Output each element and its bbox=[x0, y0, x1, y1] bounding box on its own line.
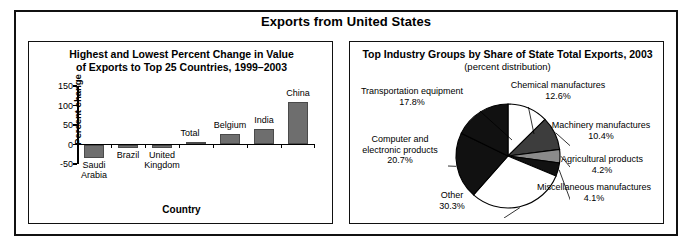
pie-chart-panel: Top Industry Groups by Share of State To… bbox=[349, 41, 664, 224]
pie-callout-percent: 10.4% bbox=[540, 131, 662, 142]
pie-callout-label: Miscellaneous manufactures bbox=[537, 182, 651, 192]
page-title: Exports from United States bbox=[14, 14, 678, 29]
bar-chart-x-tick bbox=[247, 144, 248, 148]
figure-root: Exports from United States Highest and L… bbox=[0, 0, 694, 249]
bar-chart-bar[interactable] bbox=[220, 134, 240, 145]
bar-chart-bar[interactable] bbox=[288, 102, 308, 145]
pie-chart-title: Top Industry Groups by Share of State To… bbox=[350, 42, 665, 61]
bar-chart-x-tick bbox=[213, 144, 214, 148]
bar-chart-x-tick bbox=[314, 144, 315, 148]
pie-callout-percent: 4.1% bbox=[526, 193, 662, 204]
bar-chart-category-label: India bbox=[237, 116, 291, 126]
pie-callout-percent: 20.7% bbox=[352, 155, 448, 166]
pie-chart-subtitle: (percent distribution) bbox=[350, 61, 665, 72]
bar-chart-y-tick bbox=[73, 85, 77, 86]
bar-chart-y-tick-label: 0 bbox=[68, 140, 73, 149]
pie-callout-agricultural-products: Agricultural products4.2% bbox=[546, 154, 658, 175]
bar-chart-plot-area: -50050100150Saudi ArabiaBrazilUnited Kin… bbox=[77, 86, 315, 164]
bar-chart-category-label: China bbox=[271, 89, 325, 99]
bar-chart-y-tick bbox=[73, 105, 77, 106]
pie-callout-label: Chemical manufactures bbox=[511, 80, 606, 90]
pie-callout-label: Computer and electronic products bbox=[362, 134, 438, 155]
bar-chart-bar[interactable] bbox=[186, 142, 206, 144]
bar-chart-bar[interactable] bbox=[118, 145, 138, 149]
bar-chart-x-axis-label: Country bbox=[29, 204, 334, 215]
pie-callout-percent: 17.8% bbox=[352, 97, 472, 108]
bar-chart-bar[interactable] bbox=[152, 145, 172, 149]
bar-chart: Highest and Lowest Percent Change in Val… bbox=[29, 42, 334, 225]
pie-callout-other: Other30.3% bbox=[424, 190, 480, 211]
pie-leader-line bbox=[504, 208, 520, 218]
pie-callout-label: Machinery manufactures bbox=[552, 120, 651, 130]
bar-chart-y-tick-label: 150 bbox=[58, 82, 73, 91]
bar-chart-y-tick-label: 100 bbox=[58, 101, 73, 110]
pie-callout-percent: 30.3% bbox=[424, 201, 480, 212]
bar-chart-x-tick bbox=[281, 144, 282, 148]
pie-callout-transportation-equipment: Transportation equipment17.8% bbox=[352, 86, 472, 107]
pie-callout-computer-electronic-products: Computer and electronic products20.7% bbox=[352, 134, 448, 166]
bar-chart-x-tick bbox=[179, 144, 180, 148]
bar-chart-category-label: United Kingdom bbox=[135, 151, 189, 170]
pie-chart: Top Industry Groups by Share of State To… bbox=[350, 42, 665, 225]
bar-chart-y-axis bbox=[77, 86, 79, 164]
bar-chart-panel: Highest and Lowest Percent Change in Val… bbox=[28, 41, 333, 224]
bar-chart-category-label: Total bbox=[163, 129, 217, 139]
pie-callout-machinery-manufactures: Machinery manufactures10.4% bbox=[540, 120, 662, 141]
pie-callout-miscellaneous-manufactures: Miscellaneous manufactures4.1% bbox=[526, 182, 662, 203]
bar-chart-y-tick-label: 50 bbox=[63, 121, 73, 130]
pie-callout-chemical-manufactures: Chemical manufactures12.6% bbox=[498, 80, 618, 101]
bar-chart-title-line1: Highest and Lowest Percent Change in Val… bbox=[29, 48, 334, 61]
bar-chart-bar[interactable] bbox=[254, 129, 274, 145]
pie-callout-label: Other bbox=[441, 190, 464, 200]
bar-chart-x-tick bbox=[111, 144, 112, 148]
pie-callout-percent: 4.2% bbox=[546, 165, 658, 176]
pie-callout-percent: 12.6% bbox=[498, 91, 618, 102]
bar-chart-x-tick bbox=[77, 144, 78, 148]
pie-callout-label: Transportation equipment bbox=[361, 86, 463, 96]
bar-chart-y-tick bbox=[73, 124, 77, 125]
pie-callout-label: Agricultural products bbox=[561, 154, 643, 164]
bar-chart-category-label: Saudi Arabia bbox=[67, 161, 121, 180]
bar-chart-x-tick bbox=[145, 144, 146, 148]
